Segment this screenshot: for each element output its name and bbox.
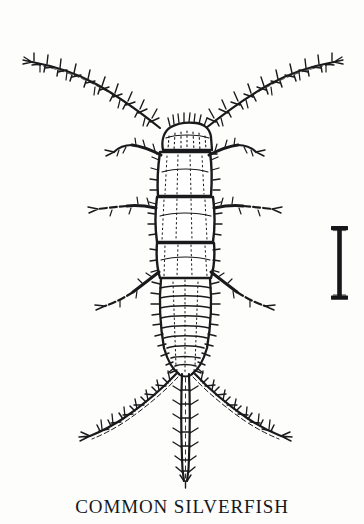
scale-bar-glyph: [320, 222, 358, 304]
abdomen: [151, 279, 220, 374]
silverfish-figure: [0, 0, 364, 524]
terminal-filament: [173, 374, 198, 488]
plate-caption: COMMON SILVERFISH: [0, 496, 364, 518]
right-cercus: [193, 371, 292, 441]
right-antenna: [206, 53, 343, 128]
illustration-plate: COMMON SILVERFISH: [0, 0, 364, 524]
scale-bar: [320, 222, 358, 304]
thorax: [148, 152, 222, 278]
left-cercus: [79, 371, 178, 441]
left-antenna: [23, 53, 160, 128]
